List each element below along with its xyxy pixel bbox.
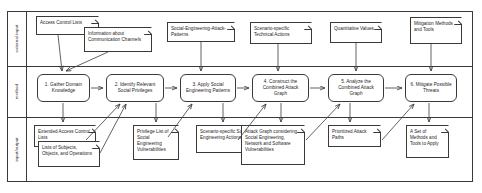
lane-divider-method-output bbox=[7, 117, 473, 118]
note-scenario-specific-technical-actions: Scenario-specific Technical Actions bbox=[250, 22, 312, 44]
note-access-control-lists-text: Access Control Lists bbox=[40, 20, 82, 25]
note-extended-access-control-lists-text: Extended Access Control Lists bbox=[38, 129, 90, 140]
lane-label-input-output-text: input/output bbox=[14, 137, 19, 161]
note-a-set-of-methods-and-tools-to-apply: A Set of Methods and Tools to Apply bbox=[406, 125, 449, 158]
note-fold-corner-icon bbox=[373, 125, 381, 133]
lane-label-input-output: input/output bbox=[7, 117, 26, 182]
note-mitigation-methods-and-tools-text: Mitigation Methods and Tools bbox=[414, 21, 453, 32]
note-attack-graph-combined: Attack Graph considering Social Engineer… bbox=[241, 125, 305, 165]
lane-divider-external-method bbox=[7, 66, 473, 67]
note-information-about-communication-channels: Information about Communication Channels bbox=[84, 27, 152, 52]
note-fold-corner-icon bbox=[297, 125, 305, 133]
activity-step-3-apply-social-engineering-patterns[interactable]: 3. Apply Social Engineering Patterns bbox=[180, 74, 236, 102]
note-fold-corner-icon bbox=[454, 17, 462, 25]
note-a-set-of-methods-and-tools-to-apply-text: A Set of Methods and Tools to Apply bbox=[410, 129, 439, 146]
note-information-about-communication-channels-text: Information about Communication Channels bbox=[88, 31, 141, 42]
note-fold-corner-icon bbox=[144, 27, 152, 35]
note-social-engineering-attack-patterns: Social-Engineering-Attack-Patterns bbox=[167, 22, 235, 42]
note-lists-of-subjects-objects-and-operations: Lists of Subjects, Objects, and Operatio… bbox=[38, 141, 100, 167]
note-prioritized-attack-paths: Prioritized Attack Paths bbox=[328, 125, 381, 147]
note-fold-corner-icon bbox=[171, 125, 179, 133]
lane-label-external-input: external input bbox=[7, 11, 26, 66]
note-privilege-list-of-social-engineering-vulnerabilities-text: Privilege List of Social Engineering Vul… bbox=[137, 129, 169, 152]
activity-step-4-construct-the-combined-attack-graph[interactable]: 4. Construct the Combined Attack Graph bbox=[252, 74, 309, 102]
note-quantitative-values-text: Quantitative Values bbox=[334, 26, 374, 31]
activity-step-5-analyze-the-combined-attack-graph[interactable]: 5. Analyze the Combined Attack Graph bbox=[328, 74, 384, 102]
note-scenario-specific-technical-actions-text: Scenario-specific Technical Actions bbox=[254, 26, 290, 37]
note-fold-corner-icon bbox=[304, 22, 312, 30]
activity-step-1-gather-domain-knowledge[interactable]: 1. Gather Domain Knowledge bbox=[37, 74, 90, 102]
activity-step-5-label: 5. Analyze the Combined Attack Graph bbox=[332, 79, 380, 98]
note-fold-corner-icon bbox=[374, 22, 382, 30]
note-privilege-list-of-social-engineering-vulnerabilities: Privilege List of Social Engineering Vul… bbox=[133, 125, 179, 160]
activity-step-1-label: 1. Gather Domain Knowledge bbox=[41, 82, 86, 94]
note-social-engineering-attack-patterns-text: Social-Engineering-Attack-Patterns bbox=[171, 26, 226, 37]
note-fold-corner-icon bbox=[227, 22, 235, 30]
activity-step-2-identify-relevant-social-privileges[interactable]: 2. Identify Relevant Social Privileges bbox=[106, 74, 164, 102]
lane-label-method-text: method bbox=[14, 84, 19, 99]
process-diagram-canvas: external input method input/output Acces… bbox=[0, 0, 482, 193]
activity-step-2-label: 2. Identify Relevant Social Privileges bbox=[110, 82, 160, 94]
note-mitigation-methods-and-tools: Mitigation Methods and Tools bbox=[410, 17, 462, 44]
activity-step-6-label: 6. Mitigate Possible Threats bbox=[409, 82, 453, 94]
note-prioritized-attack-paths-text: Prioritized Attack Paths bbox=[332, 129, 367, 140]
lane-label-method: method bbox=[7, 66, 26, 117]
note-fold-corner-icon bbox=[92, 141, 100, 149]
note-fold-corner-icon bbox=[441, 125, 449, 133]
lane-label-gutter-divider bbox=[26, 11, 27, 182]
activity-step-6-mitigate-possible-threats[interactable]: 6. Mitigate Possible Threats bbox=[405, 74, 457, 102]
note-lists-of-subjects-objects-and-operations-text: Lists of Subjects, Objects, and Operatio… bbox=[42, 145, 92, 156]
note-fold-corner-icon bbox=[91, 16, 99, 24]
lane-label-external-input-text: external input bbox=[14, 25, 19, 53]
activity-step-4-label: 4. Construct the Combined Attack Graph bbox=[256, 79, 305, 98]
activity-step-3-label: 3. Apply Social Engineering Patterns bbox=[184, 82, 232, 94]
note-quantitative-values: Quantitative Values bbox=[330, 22, 382, 43]
note-attack-graph-combined-text: Attack Graph considering Social Engineer… bbox=[245, 129, 297, 152]
